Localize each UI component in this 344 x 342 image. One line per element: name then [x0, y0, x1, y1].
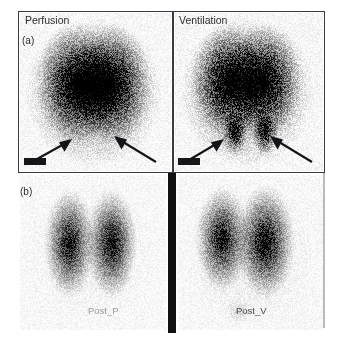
panel-tag-a: (a) [22, 36, 34, 46]
panel-b-vertical-divider [168, 173, 176, 333]
caption-post-v: Post_V [236, 306, 267, 316]
panel-a-vertical-divider [172, 11, 174, 173]
lung-scintigraphy-figure: Perfusion Ventilation (a) (b) Post_P Pos… [0, 0, 344, 342]
panel-tag-b: (b) [20, 187, 32, 197]
arrow-up-left-icon [268, 136, 314, 164]
panel-title-perfusion: Perfusion [25, 15, 69, 26]
panel-title-ventilation: Ventilation [179, 15, 227, 26]
panel-b-right-edge [323, 173, 325, 328]
arrow-up-right-icon [182, 139, 226, 165]
arrow-up-right-icon [28, 139, 74, 165]
caption-post-p: Post_P [88, 306, 119, 316]
arrow-up-left-icon [112, 136, 158, 164]
